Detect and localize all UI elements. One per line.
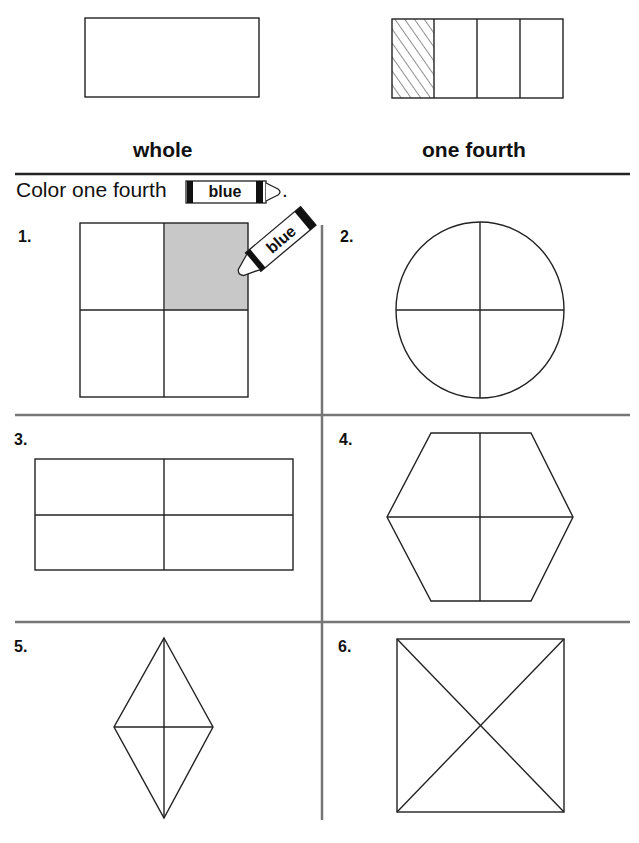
problem-number-5: 5. — [14, 638, 27, 656]
example-whole-rectangle — [85, 18, 259, 97]
problem-2-circle[interactable] — [396, 222, 564, 398]
grid-dividers — [15, 225, 630, 820]
problem-number-2: 2. — [340, 228, 353, 246]
problem-number-4: 4. — [339, 431, 352, 449]
problem-5-rhombus[interactable] — [114, 638, 213, 818]
problem-number-6: 6. — [338, 638, 351, 656]
problem-number-3: 3. — [14, 431, 27, 449]
worksheet-graphics: blue — [0, 0, 639, 843]
problem-6-rectangle-diagonals[interactable] — [397, 639, 564, 812]
whole-label: whole — [133, 138, 193, 162]
one-fourth-label: one fourth — [422, 138, 526, 162]
problem-4-hexagon[interactable] — [387, 433, 573, 601]
instruction-period: . — [282, 178, 288, 202]
instruction-text: Color one fourth — [16, 178, 167, 202]
problem-3-rectangle[interactable] — [35, 459, 293, 570]
crayon-label: blue — [194, 181, 256, 203]
example-fourth-rectangle — [392, 19, 563, 98]
problem-1-square[interactable] — [80, 223, 248, 397]
problem-number-1: 1. — [18, 228, 31, 246]
